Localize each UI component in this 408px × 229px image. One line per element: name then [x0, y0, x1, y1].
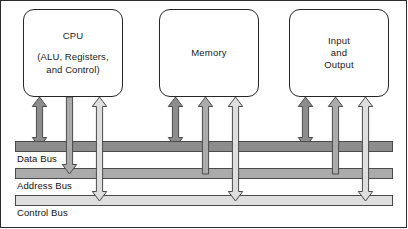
connector-arrow-cpu-to-address-bus — [62, 97, 77, 174]
unit-box-input-output: InputandOutput — [289, 9, 389, 97]
unit-title-line: and — [324, 47, 354, 59]
connector-arrow-memory-to-control-bus — [228, 97, 243, 201]
diagram-frame: CPU(ALU, Registers,and Control)MemoryInp… — [0, 0, 407, 228]
unit-box-cpu: CPU(ALU, Registers,and Control) — [23, 9, 123, 97]
unit-subtitle-cpu: (ALU, Registers,and Control) — [37, 51, 108, 75]
bus-label-address-bus: Address Bus — [17, 180, 72, 191]
unit-box-memory: Memory — [159, 9, 259, 97]
connector-arrow-memory-to-address-bus — [198, 97, 213, 174]
unit-title-memory: Memory — [191, 47, 227, 59]
bus-label-data-bus: Data Bus — [17, 153, 57, 164]
connector-arrow-input-output-to-data-bus — [298, 97, 313, 147]
bus-label-control-bus: Control Bus — [17, 207, 68, 218]
connector-arrow-cpu-to-control-bus — [92, 97, 107, 201]
connector-arrow-cpu-to-data-bus — [32, 97, 47, 147]
unit-subtitle-line: and Control) — [37, 64, 108, 76]
unit-title-line: Input — [324, 35, 354, 47]
unit-title-line: Output — [324, 59, 354, 71]
bus-bar-control-bus — [15, 195, 393, 206]
connector-arrow-input-output-to-control-bus — [358, 97, 373, 201]
unit-title-input-output: InputandOutput — [324, 35, 354, 71]
connector-arrow-input-output-to-address-bus — [328, 97, 343, 174]
unit-title-cpu: CPU — [63, 30, 84, 42]
unit-subtitle-line: (ALU, Registers, — [37, 51, 108, 63]
connector-arrow-memory-to-data-bus — [168, 97, 183, 147]
